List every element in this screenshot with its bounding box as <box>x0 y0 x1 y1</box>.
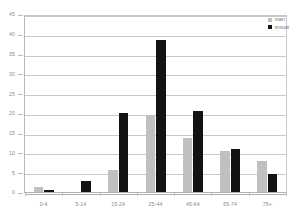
legend-swatch-man-icon <box>268 18 272 22</box>
y-tick-35 <box>18 55 23 56</box>
y-tick-25 <box>18 94 23 95</box>
bar-vrouw-65-74 <box>231 149 241 193</box>
x-tick <box>100 193 101 196</box>
legend-entry-vrouw: vrouw <box>268 25 289 30</box>
y-tick-5 <box>18 173 23 174</box>
y-tick-20 <box>18 114 23 115</box>
y-axis-label: 10 <box>0 151 15 156</box>
x-tick <box>62 193 63 196</box>
y-axis-label: 25 <box>0 92 15 97</box>
x-axis-label-65-74: 65-74 <box>223 202 237 207</box>
y-axis-label: 45 <box>0 12 15 17</box>
x-tick <box>211 193 212 196</box>
y-axis-label: 0 <box>0 190 15 195</box>
bar-vrouw-45-64 <box>193 111 203 193</box>
bar-man-65-74 <box>220 151 230 193</box>
y-tick-15 <box>18 134 23 135</box>
x-axis-label-15-24: 15-24 <box>111 202 125 207</box>
x-axis-label-25-44: 25-44 <box>149 202 163 207</box>
y-tick-30 <box>18 74 23 75</box>
bar-vrouw-75+ <box>268 174 278 193</box>
legend-label-man: man <box>275 17 285 22</box>
y-axis-label: 20 <box>0 111 15 116</box>
y-axis-label: 30 <box>0 72 15 77</box>
bar-chart: 051015202530354045 0-45-1415-2425-4445-6… <box>0 0 299 218</box>
x-axis-label-45-64: 45-64 <box>186 202 200 207</box>
y-axis-label: 40 <box>0 32 15 37</box>
gridline-0 <box>25 194 286 195</box>
x-tick <box>249 193 250 196</box>
legend-label-vrouw: vrouw <box>275 25 289 30</box>
y-axis-label: 35 <box>0 52 15 57</box>
bar-man-25-44 <box>146 115 156 193</box>
x-axis-label-0-4: 0-4 <box>40 202 48 207</box>
x-axis-label-5-14: 5-14 <box>76 202 87 207</box>
bar-man-45-64 <box>183 138 193 193</box>
x-tick <box>25 193 26 196</box>
x-tick <box>137 193 138 196</box>
x-axis-label-75+: 75+ <box>263 202 272 207</box>
legend-entry-man: man <box>268 17 289 22</box>
bar-vrouw-15-24 <box>119 113 129 193</box>
bars-layer <box>25 15 286 193</box>
legend-swatch-vrouw-icon <box>268 25 272 29</box>
bar-vrouw-25-44 <box>156 40 166 193</box>
bar-man-15-24 <box>108 170 118 193</box>
y-tick-10 <box>18 153 23 154</box>
y-tick-0 <box>18 193 23 194</box>
chart-legend: man vrouw <box>268 17 289 30</box>
y-axis-label: 15 <box>0 131 15 136</box>
x-axis-line <box>24 192 287 193</box>
bar-man-75+ <box>257 161 267 193</box>
x-tick <box>174 193 175 196</box>
y-tick-40 <box>18 35 23 36</box>
x-tick <box>286 193 287 196</box>
y-axis-label: 5 <box>0 171 15 176</box>
y-tick-45 <box>18 15 23 16</box>
